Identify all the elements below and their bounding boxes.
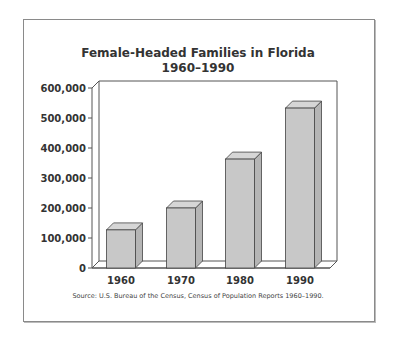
x-tick-label: 1970: [167, 275, 195, 286]
x-tick-label: 1990: [286, 275, 314, 286]
source-note: Source: U.S. Bureau of the Census, Censu…: [0, 292, 396, 300]
y-tick-label: 100,000: [40, 233, 86, 244]
y-tick-label: 500,000: [40, 113, 86, 124]
bar-side: [255, 152, 262, 268]
y-tick-label: 400,000: [40, 143, 86, 154]
bar-top: [226, 152, 262, 159]
bar-side: [196, 201, 203, 268]
bar-top: [107, 223, 143, 230]
bar-1990: [286, 108, 315, 268]
x-tick-label: 1960: [107, 275, 135, 286]
y-tick-label: 0: [79, 263, 86, 274]
bar-side: [136, 223, 143, 268]
bar-1970: [167, 208, 196, 268]
bar-1980: [226, 159, 255, 268]
bar-side: [315, 101, 322, 268]
x-tick-label: 1980: [226, 275, 254, 286]
bar-top: [167, 201, 203, 208]
y-tick-label: 200,000: [40, 203, 86, 214]
bar-1960: [107, 230, 136, 268]
bar-top: [286, 101, 322, 108]
y-tick-label: 300,000: [40, 173, 86, 184]
y-tick-label: 600,000: [40, 83, 86, 94]
